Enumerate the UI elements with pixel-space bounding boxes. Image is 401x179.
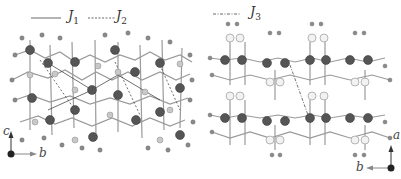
axis-indicator-left [8,131,38,158]
legend-j3: J3 [250,4,261,22]
dash-dot-line-icon [213,9,253,19]
axis-label-b: b [39,146,47,160]
axis-label-a: a [393,128,400,142]
right-structure-panel: J3 a b [200,0,401,179]
crystal-structure-ab-view [200,0,401,179]
crystal-structure-bc-view [0,0,200,179]
axis-label-c: c [3,124,10,138]
legend-j2: J2 [116,8,127,26]
legend-j1: J1 [68,8,79,26]
left-structure-panel: J1 J2 c b [0,0,200,179]
solid-line-icon [31,13,71,23]
axis-indicator-right [366,145,395,172]
axis-label-b-right: b [356,160,364,174]
